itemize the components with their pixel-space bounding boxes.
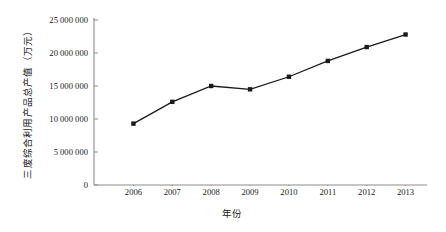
x-tick-label: 2008: [189, 188, 233, 197]
x-tick-label: 2011: [306, 188, 350, 197]
y-tick-label: 5 000 000: [26, 148, 88, 157]
data-point-marker: [403, 32, 407, 36]
y-tick-label: 15 000 000: [26, 82, 88, 91]
y-axis-tick-labels: 05 000 00010 000 00015 000 00020 000 000…: [26, 0, 88, 232]
plot-area: [92, 14, 428, 186]
y-tick-label: 0: [26, 181, 88, 190]
data-point-marker: [209, 84, 213, 88]
chart-figure: 三废综合利用产品总产值（万元） 05 000 00010 000 00015 0…: [0, 0, 446, 232]
x-axis-title: 年份: [0, 206, 446, 220]
y-axis-ticks: [94, 20, 98, 185]
x-axis-title-text: 年份: [204, 206, 242, 220]
x-tick-label: 2013: [384, 188, 428, 197]
x-tick-label: 2006: [111, 188, 155, 197]
y-tick-label: 10 000 000: [26, 115, 88, 124]
data-point-marker: [326, 59, 330, 63]
line-chart-svg: [92, 14, 428, 186]
x-tick-label: 2007: [150, 188, 194, 197]
x-axis-tick-labels: 20062007200820092010201120122013: [92, 188, 428, 204]
data-point-markers: [131, 32, 408, 126]
x-tick-label: 2012: [345, 188, 389, 197]
data-point-marker: [248, 87, 252, 91]
data-point-marker: [170, 100, 174, 104]
data-point-marker: [364, 45, 368, 49]
x-tick-label: 2010: [267, 188, 311, 197]
y-tick-label: 25 000 000: [26, 16, 88, 25]
x-tick-label: 2009: [228, 188, 272, 197]
data-point-marker: [287, 75, 291, 79]
y-tick-label: 20 000 000: [26, 49, 88, 58]
data-point-marker: [131, 121, 135, 125]
